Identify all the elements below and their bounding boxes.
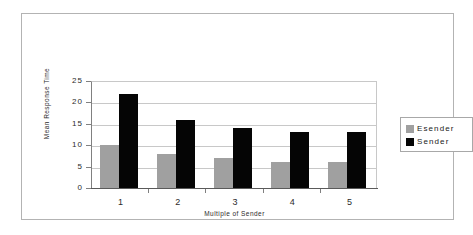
y-axis-label-wrap: 0 (55, 184, 83, 192)
legend-label-esender: Esender (417, 124, 455, 133)
bar-sender-2 (176, 120, 195, 188)
bar-esender-3 (214, 158, 233, 188)
y-axis-label-wrap: 25 (55, 77, 83, 85)
bar-esender-1 (100, 145, 119, 188)
x-axis-label-5: 5 (329, 197, 369, 207)
legend-item-esender[interactable]: Esender (406, 122, 472, 135)
x-axis-tick (205, 189, 206, 193)
legend-swatch-esender-icon (406, 125, 414, 133)
y-axis-label: 0 (57, 184, 83, 192)
bar-esender-2 (157, 154, 176, 188)
bar-sender-3 (233, 128, 252, 188)
x-axis-tick (320, 189, 321, 193)
legend-label-sender: Sender (417, 137, 449, 146)
bar-esender-5 (328, 162, 347, 188)
y-axis-title: Mean Response Time (43, 56, 50, 152)
x-axis-label-3: 3 (215, 197, 255, 207)
y-axis-label: 5 (57, 163, 83, 171)
y-axis-label: 15 (57, 120, 83, 128)
legend-swatch-sender-icon (406, 138, 414, 146)
bar-sender-4 (290, 132, 309, 188)
bar-sender-5 (347, 132, 366, 188)
y-axis-label: 20 (57, 98, 83, 106)
x-axis-line (91, 188, 378, 189)
y-axis-label-wrap: 20 (55, 98, 83, 106)
y-axis-label-wrap: 15 (55, 120, 83, 128)
bars-layer (92, 81, 377, 188)
legend-item-sender[interactable]: Sender (406, 135, 472, 148)
y-axis-label-wrap: 10 (55, 141, 83, 149)
y-axis-label: 10 (57, 141, 83, 149)
x-axis-label-2: 2 (158, 197, 198, 207)
bar-esender-4 (271, 162, 290, 188)
x-axis-title: Multiple of Sender (91, 210, 378, 217)
x-axis-tick (148, 189, 149, 193)
x-axis-label-1: 1 (101, 197, 141, 207)
chart-frame: Mean Response Time 2520151050 12345 Mult… (21, 13, 454, 220)
bar-sender-1 (119, 94, 138, 188)
y-axis-label-wrap: 5 (55, 163, 83, 171)
chart-figure: Mean Response Time 2520151050 12345 Mult… (0, 0, 473, 235)
x-axis-label-4: 4 (272, 197, 312, 207)
chart-legend: Esender Sender (400, 117, 473, 152)
x-axis-tick (263, 189, 264, 193)
y-axis-label: 25 (57, 77, 83, 85)
